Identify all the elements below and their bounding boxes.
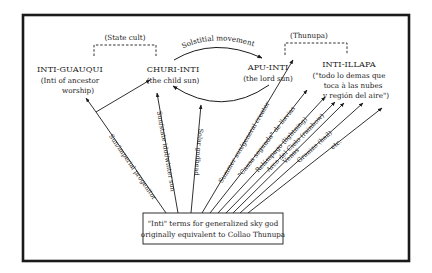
ray-fork-guauqui [86, 98, 96, 112]
ray: Sun/state idol/winter sun [155, 93, 178, 213]
node-subtitle: (Inti of ancestor [41, 76, 100, 85]
node-churi-inti: CHURI-INTI (the child sun) [147, 64, 200, 85]
inti-diagram: (State cult) (Thunupa) INTI-GUAUQUI (Int… [0, 0, 432, 273]
ray-label: Solar godhead [192, 128, 204, 176]
node-title: CHURI-INTI [147, 64, 200, 74]
node-title: APU-INTI [247, 62, 289, 72]
ray-label: etc. [329, 138, 343, 152]
ray-label: Sun/imperial progenitor [107, 133, 159, 203]
state-cult-bracket [94, 45, 156, 56]
node-inti-guauqui: INTI-GUAUQUI (Inti of ancestor worship) [37, 64, 103, 95]
thunupa-label: (Thunupa) [290, 31, 328, 40]
node-title: INTI-GUAUQUI [37, 64, 103, 74]
node-inti-illapa: INTI-ILLAPA ("todo lo demas que toca à l… [313, 59, 390, 100]
base-box-frame [143, 213, 283, 244]
ray: Sun/imperial progenitor [86, 80, 166, 213]
ray: Solar godhead [191, 105, 205, 213]
base-box: "Inti" terms for generalized sky god ori… [141, 213, 286, 244]
diagram-stage: (State cult) (Thunupa) INTI-GUAUQUI (Int… [0, 0, 432, 273]
cycle-arc-top [174, 47, 262, 60]
ray-fork-churi [96, 80, 150, 112]
base-box-line2: originally equivalent to Collao Thunupa [141, 230, 286, 239]
node-title: INTI-ILLAPA [322, 59, 376, 69]
node-subtitle: worship) [62, 86, 94, 95]
node-subtitle: toca à las nubes [324, 81, 383, 90]
node-subtitle: (the lord sun) [243, 74, 293, 83]
state-cult-label: (State cult) [105, 33, 146, 42]
node-subtitle: y región del aire") [322, 91, 389, 100]
node-subtitle: ("todo lo demas que [313, 71, 386, 80]
thunupa-bracket [285, 43, 347, 55]
base-box-line1: "Inti" terms for generalized sky god [148, 219, 279, 228]
node-subtitle: (the child sun) [147, 76, 200, 85]
cycle-arc-bottom [173, 85, 269, 102]
ray-label: Sun/state idol/winter sun [155, 111, 177, 193]
